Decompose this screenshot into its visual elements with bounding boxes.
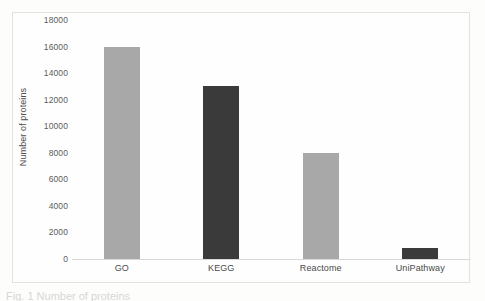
y-axis-tick-label: 4000 <box>22 201 68 211</box>
bar-series <box>72 20 470 259</box>
x-axis-category-labels: GOKEGGReactomeUniPathway <box>72 263 470 273</box>
bar-kegg[interactable] <box>203 86 239 259</box>
bar-slot <box>72 20 172 259</box>
bar-slot <box>271 20 371 259</box>
y-axis-tick-label: 10000 <box>22 121 68 131</box>
figure-caption: Fig. 1 Number of proteins <box>6 290 306 301</box>
bar-unipathway[interactable] <box>402 248 438 259</box>
y-axis-tick-label: 8000 <box>22 148 68 158</box>
x-axis-baseline <box>72 259 470 260</box>
x-axis-label-reactome: Reactome <box>271 263 371 273</box>
y-axis-tick-label: 6000 <box>22 174 68 184</box>
x-axis-label-go: GO <box>72 263 172 273</box>
y-axis-tick-label: 16000 <box>22 42 68 52</box>
y-axis-tick-label: 0 <box>22 254 68 264</box>
y-axis-tick-label: 2000 <box>22 227 68 237</box>
bar-reactome[interactable] <box>303 153 339 259</box>
y-axis-tick-label: 12000 <box>22 95 68 105</box>
x-axis-label-unipathway: UniPathway <box>371 263 471 273</box>
figure-container: Number of proteins 180001600014000120001… <box>0 0 485 301</box>
bar-go[interactable] <box>104 47 140 259</box>
bar-slot <box>172 20 272 259</box>
x-axis-label-kegg: KEGG <box>172 263 272 273</box>
y-axis-tick-label: 18000 <box>22 15 68 25</box>
bar-slot <box>371 20 471 259</box>
y-axis-tick-label: 14000 <box>22 68 68 78</box>
y-axis-tick-labels: 1800016000140001200010000800060004000200… <box>16 20 68 259</box>
